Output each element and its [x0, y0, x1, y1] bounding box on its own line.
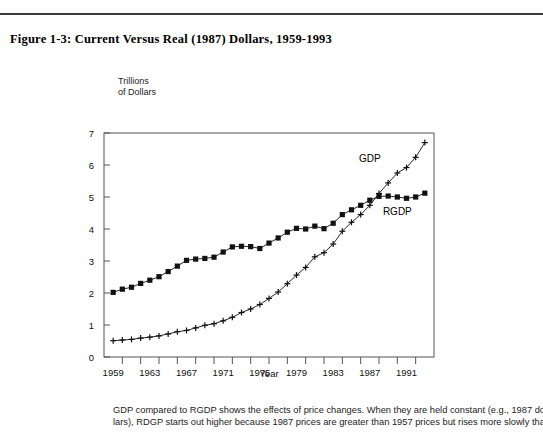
data-point-marker-plus: [174, 329, 180, 335]
data-point-marker-plus: [220, 318, 226, 324]
data-point-marker-square: [404, 196, 409, 201]
data-point-marker-plus: [147, 334, 153, 340]
data-point-marker-square: [331, 221, 336, 226]
data-point-marker-plus: [239, 310, 245, 316]
data-point-marker-square: [202, 256, 207, 261]
y-tick-label: 6: [89, 160, 94, 171]
x-tick-label: 1971: [213, 367, 234, 378]
line-chart: 01234567 1959196319671971197519791983198…: [0, 0, 543, 400]
data-point-marker-square: [184, 258, 189, 263]
data-point-marker-square: [321, 226, 326, 231]
data-point-marker-plus: [138, 335, 144, 341]
data-point-marker-square: [138, 281, 143, 286]
y-axis-group: 01234567: [89, 128, 110, 363]
x-axis-title: Year: [259, 368, 278, 379]
data-point-marker-plus: [229, 314, 235, 320]
data-point-marker-square: [422, 191, 427, 196]
series-annotations-group: GDPRGDP: [359, 153, 412, 217]
data-point-marker-plus: [156, 333, 162, 339]
data-point-marker-square: [276, 235, 281, 240]
x-tick-label: 1991: [396, 367, 417, 378]
data-point-marker-plus: [193, 325, 199, 331]
data-point-marker-plus: [422, 140, 428, 146]
data-series-group: [110, 140, 428, 344]
data-point-marker-square: [257, 246, 262, 251]
data-point-marker-square: [248, 244, 253, 249]
data-point-marker-square: [193, 256, 198, 261]
data-point-marker-square: [221, 249, 226, 254]
data-point-marker-plus: [257, 302, 263, 308]
data-point-marker-square: [230, 244, 235, 249]
data-point-marker-square: [413, 194, 418, 199]
data-point-marker-square: [266, 240, 271, 245]
data-point-marker-plus: [110, 338, 116, 344]
caption-line-2: lars), RDGP starts out higher because 19…: [113, 416, 537, 428]
data-point-marker-square: [294, 226, 299, 231]
data-point-marker-square: [166, 269, 171, 274]
y-tick-label: 2: [89, 288, 94, 299]
data-point-marker-square: [376, 194, 381, 199]
data-point-marker-square: [129, 285, 134, 290]
data-point-marker-square: [147, 278, 152, 283]
series-annotation-rgdp: RGDP: [383, 206, 412, 217]
chart-canvas: 01234567 1959196319671971197519791983198…: [0, 0, 543, 400]
data-point-marker-square: [239, 244, 244, 249]
data-point-marker-plus: [211, 321, 217, 327]
data-point-marker-plus: [184, 327, 190, 333]
y-tick-label: 3: [89, 256, 94, 267]
data-point-marker-square: [211, 255, 216, 260]
data-point-marker-square: [175, 264, 180, 269]
x-tick-label: 1983: [323, 367, 344, 378]
data-point-marker-plus: [248, 306, 254, 312]
x-tick-label: 1963: [139, 367, 160, 378]
data-point-marker-square: [358, 203, 363, 208]
data-point-marker-plus: [165, 331, 171, 337]
data-point-marker-square: [156, 274, 161, 279]
x-tick-label: 1979: [286, 367, 307, 378]
data-point-marker-plus: [266, 295, 272, 301]
data-point-marker-plus: [119, 337, 125, 343]
data-point-marker-square: [312, 224, 317, 229]
data-point-marker-plus: [202, 322, 208, 328]
data-point-marker-square: [111, 290, 116, 295]
y-tick-label: 0: [89, 352, 94, 363]
data-point-marker-square: [367, 198, 372, 203]
figure-caption: GDP compared to RGDP shows the effects o…: [113, 404, 537, 429]
data-point-marker-square: [386, 193, 391, 198]
data-point-marker-plus: [129, 336, 135, 342]
x-tick-label: 1987: [359, 367, 380, 378]
data-point-marker-square: [395, 194, 400, 199]
figure-page: Figure 1-3: Current Versus Real (1987) D…: [0, 0, 543, 441]
y-tick-label: 5: [89, 192, 94, 203]
series-annotation-gdp: GDP: [359, 153, 381, 164]
data-point-marker-square: [120, 287, 125, 292]
x-tick-label: 1959: [103, 367, 124, 378]
y-tick-label: 4: [89, 224, 94, 235]
y-tick-label: 1: [89, 320, 94, 331]
data-point-marker-square: [349, 207, 354, 212]
data-point-marker-square: [285, 230, 290, 235]
caption-line-1: GDP compared to RGDP shows the effects o…: [113, 404, 537, 416]
x-tick-label: 1967: [176, 367, 197, 378]
data-point-marker-square: [303, 226, 308, 231]
y-tick-label: 7: [89, 128, 94, 139]
data-point-marker-square: [340, 212, 345, 217]
